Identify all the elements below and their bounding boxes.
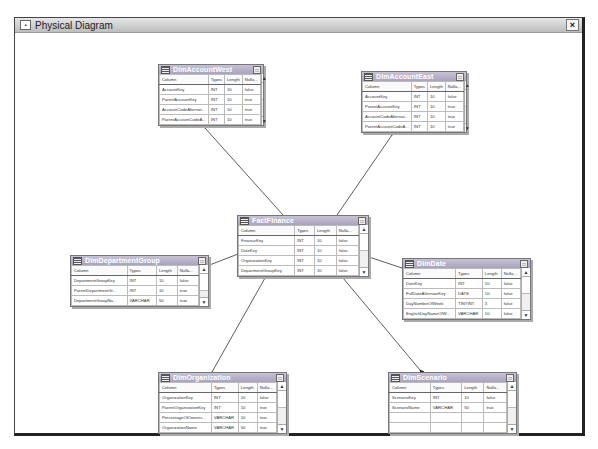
column-header[interactable]: Types [295, 226, 315, 236]
column-header[interactable]: Nulla... [257, 383, 276, 393]
scroll-up-icon[interactable]: ▲ [522, 268, 530, 277]
maximize-icon[interactable]: □ [456, 73, 464, 81]
scroll-up-icon[interactable]: ▲ [508, 382, 516, 391]
column-header[interactable]: Length [462, 383, 484, 393]
scroll-thumb[interactable] [360, 234, 368, 251]
column-header[interactable]: Nulla... [242, 75, 260, 85]
table-row[interactable]: ScenarioKeyINT10false [390, 393, 507, 403]
table-header[interactable]: DimOrganization □ [159, 373, 286, 382]
scroll-thumb[interactable] [200, 274, 208, 291]
table-header[interactable]: DimAccountWest □ [159, 65, 263, 74]
scroll-down-icon[interactable]: ▼ [278, 424, 286, 433]
table-row[interactable]: FinanceKeyINT10false [239, 236, 359, 246]
column-header[interactable]: Types [208, 75, 224, 85]
scroll-down-icon[interactable]: ▼ [508, 424, 516, 433]
table-east[interactable]: DimAccountEast □ ColumnTypesLengthNulla.… [361, 71, 467, 133]
scrollbar[interactable]: ▲ ▼ [521, 268, 530, 319]
maximize-icon[interactable]: □ [276, 374, 284, 382]
scroll-thumb[interactable] [278, 391, 286, 408]
column-header[interactable]: Types [411, 82, 427, 92]
table-row[interactable]: FullDateAlternateKeyDATE10false [404, 289, 521, 299]
column-header[interactable]: Types [211, 383, 238, 393]
maximize-icon[interactable]: □ [253, 66, 261, 74]
column-header[interactable]: Length [156, 266, 177, 276]
column-header[interactable]: Types [456, 269, 483, 279]
maximize-icon[interactable]: □ [198, 257, 206, 265]
table-west[interactable]: DimAccountWest □ ColumnTypesLengthNulla.… [158, 64, 264, 126]
table-row[interactable]: OrganizationNameVARCHAR50true [160, 423, 277, 433]
scroll-up-icon[interactable]: ▲ [262, 74, 263, 83]
table-row[interactable]: DepartmentGroupKeyINT10false [239, 266, 359, 276]
table-header[interactable]: FactFinance □ [238, 216, 368, 225]
column-header[interactable]: Column [404, 269, 456, 279]
table-header[interactable]: DimAccountEast □ [362, 72, 466, 81]
table-row[interactable]: AccountCodeAlternat...INT10true [160, 105, 261, 115]
scroll-down-icon[interactable]: ▼ [262, 116, 263, 125]
table-dept[interactable]: DimDepartmentGroup □ ColumnTypesLengthNu… [70, 255, 209, 307]
column-header[interactable]: Column [363, 82, 412, 92]
column-header[interactable]: Length [238, 383, 257, 393]
column-header[interactable]: Column [160, 383, 212, 393]
column-header[interactable]: Length [314, 226, 336, 236]
scroll-down-icon[interactable]: ▼ [522, 310, 530, 319]
column-header[interactable]: Nulla... [501, 269, 520, 279]
table-row[interactable] [390, 423, 507, 433]
table-row[interactable]: ParentDepartmentGr...INT10true [72, 286, 199, 296]
column-header[interactable]: Types [127, 266, 156, 276]
maximize-icon[interactable]: □ [520, 260, 528, 268]
scroll-down-icon[interactable]: ▼ [200, 297, 208, 306]
column-header[interactable]: Column [239, 226, 295, 236]
table-row[interactable]: ParentAccountCodeA...INT10true [160, 115, 261, 125]
table-date[interactable]: DimDate □ ColumnTypesLengthNulla...DateK… [402, 258, 531, 320]
table-header[interactable]: DimDepartmentGroup □ [71, 256, 208, 265]
table-row[interactable]: ParentAccountKeyINT10true [160, 95, 261, 105]
column-header[interactable]: Length [224, 75, 242, 85]
table-fact[interactable]: FactFinance □ ColumnTypesLengthNulla...F… [237, 215, 369, 277]
table-row[interactable]: AccountKeyINT10false [160, 85, 261, 95]
scroll-up-icon[interactable]: ▲ [200, 265, 208, 274]
scrollbar[interactable]: ▲ ▼ [261, 74, 263, 125]
scroll-thumb[interactable] [522, 277, 530, 294]
table-row[interactable]: PercentageOfOwners...VARCHAR10true [160, 413, 277, 423]
column-header[interactable]: Column [390, 383, 431, 393]
scroll-up-icon[interactable]: ▲ [360, 225, 368, 234]
table-org[interactable]: DimOrganization □ ColumnTypesLengthNulla… [158, 372, 287, 434]
column-header[interactable]: Nulla... [484, 383, 507, 393]
scrollbar[interactable]: ▲ ▼ [277, 382, 286, 433]
table-header[interactable]: DimDate □ [403, 259, 530, 268]
table-row[interactable]: DayNumberOfWeekTINYINT3false [404, 299, 521, 309]
table-row[interactable]: DateKeyINT10false [404, 279, 521, 289]
title-bar[interactable]: ▪ Physical Diagram × [15, 18, 582, 33]
column-header[interactable]: Length [482, 269, 501, 279]
scrollbar[interactable]: ▲ ▼ [464, 81, 466, 132]
table-row[interactable]: DepartmentGroupNa...VARCHAR50true [72, 296, 199, 306]
table-row[interactable]: DepartmentGroupKeyINT10false [72, 276, 199, 286]
table-row[interactable]: AccountCodeAlternat...INT10true [363, 112, 464, 122]
table-row[interactable] [390, 413, 507, 423]
table-row[interactable]: ParentOrganizationKeyINT10true [160, 403, 277, 413]
scroll-down-icon[interactable]: ▼ [465, 123, 466, 132]
table-header[interactable]: DimScenario □ [389, 373, 516, 382]
scrollbar[interactable]: ▲ ▼ [199, 265, 208, 306]
scrollbar[interactable]: ▲ ▼ [359, 225, 368, 276]
table-row[interactable]: OrganizationKeyINT10false [239, 256, 359, 266]
maximize-icon[interactable]: □ [358, 217, 366, 225]
scroll-down-icon[interactable]: ▼ [360, 267, 368, 276]
table-row[interactable]: ParentAccountCodeA...INT10true [363, 122, 464, 132]
scroll-up-icon[interactable]: ▲ [278, 382, 286, 391]
scroll-thumb[interactable] [465, 90, 466, 107]
table-scenario[interactable]: DimScenario □ ColumnTypesLengthNulla...S… [388, 372, 517, 434]
maximize-icon[interactable]: □ [506, 374, 514, 382]
scroll-thumb[interactable] [262, 83, 263, 100]
table-row[interactable]: OrganizationKeyINT10false [160, 393, 277, 403]
table-row[interactable]: ScenarioNameVARCHAR50true [390, 403, 507, 413]
table-row[interactable]: ParentAccountKeyINT10true [363, 102, 464, 112]
close-button[interactable]: × [566, 19, 579, 31]
table-row[interactable]: EnglishDayNameOfW...VARCHAR10false [404, 309, 521, 319]
column-header[interactable]: Nulla... [177, 266, 198, 276]
column-header[interactable]: Nulla... [336, 226, 358, 236]
column-header[interactable]: Length [427, 82, 445, 92]
table-row[interactable]: DateKeyINT10false [239, 246, 359, 256]
column-header[interactable]: Column [160, 75, 209, 85]
scroll-thumb[interactable] [508, 391, 516, 408]
